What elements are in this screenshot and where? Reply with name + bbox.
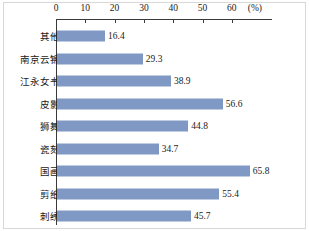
x-axis-tick-label: 10 [81,3,91,14]
bar [57,211,191,222]
x-axis-unit-label: (%) [248,3,262,14]
y-axis-tick-mark [52,103,56,104]
bar-rows: 其他16.4南京云锦29.3江永女书38.9皮影56.6狮舞44.8瓷刻34.7… [0,25,309,228]
bar-value-label: 29.3 [146,53,163,64]
y-axis-tick-mark [52,193,56,194]
x-axis-tick-mark [173,19,174,23]
x-axis-tick-label: 30 [139,3,149,14]
y-axis-tick-mark [52,171,56,172]
bar-value-label: 38.9 [174,76,191,87]
bar-value-label: 34.7 [162,143,179,154]
bar [57,121,188,132]
x-axis-tick-mark [115,19,116,23]
y-axis-tick-mark [52,81,56,82]
y-axis-tick-mark [52,216,56,217]
bar [57,143,159,154]
x-axis-tick-label: 60 [227,3,237,14]
x-axis-line [56,19,272,20]
bar-row: 其他16.4 [0,25,309,48]
bar-row: 刺绣45.7 [0,205,309,228]
bar-chart: 0102030405060 (%) 其他16.4南京云锦29.3江永女书38.9… [0,0,309,231]
x-axis-tick-label: 50 [198,3,208,14]
bar [57,76,171,87]
x-axis: 0102030405060 (%) [0,0,309,25]
y-axis-tick-mark [52,58,56,59]
bar-row: 江永女书38.9 [0,70,309,93]
bar [57,188,219,199]
bar-row: 南京云锦29.3 [0,48,309,71]
bar-value-label: 45.7 [194,211,211,222]
bar-row: 皮影56.6 [0,93,309,116]
x-axis-tick-mark [203,19,204,23]
bar-value-label: 65.8 [253,166,270,177]
bar [57,53,143,64]
y-axis-tick-mark [52,148,56,149]
bar-value-label: 56.6 [226,98,243,109]
y-axis-tick-mark [52,36,56,37]
bar [57,31,105,42]
y-axis-tick-mark [52,126,56,127]
bar-value-label: 55.4 [222,188,239,199]
x-axis-tick-label: 0 [54,3,59,14]
bar [57,166,250,177]
x-axis-tick-label: 40 [168,3,178,14]
bar-value-label: 16.4 [108,31,125,42]
x-axis-tick-mark [85,19,86,23]
bar-row: 瓷刻34.7 [0,138,309,161]
bar-row: 国画65.8 [0,160,309,183]
bar-row: 剪纸55.4 [0,183,309,206]
bar-row: 狮舞44.8 [0,115,309,138]
x-axis-tick-label: 20 [110,3,120,14]
x-axis-tick-mark [144,19,145,23]
x-axis-tick-mark [232,19,233,23]
bar [57,98,223,109]
bar-value-label: 44.8 [191,121,208,132]
